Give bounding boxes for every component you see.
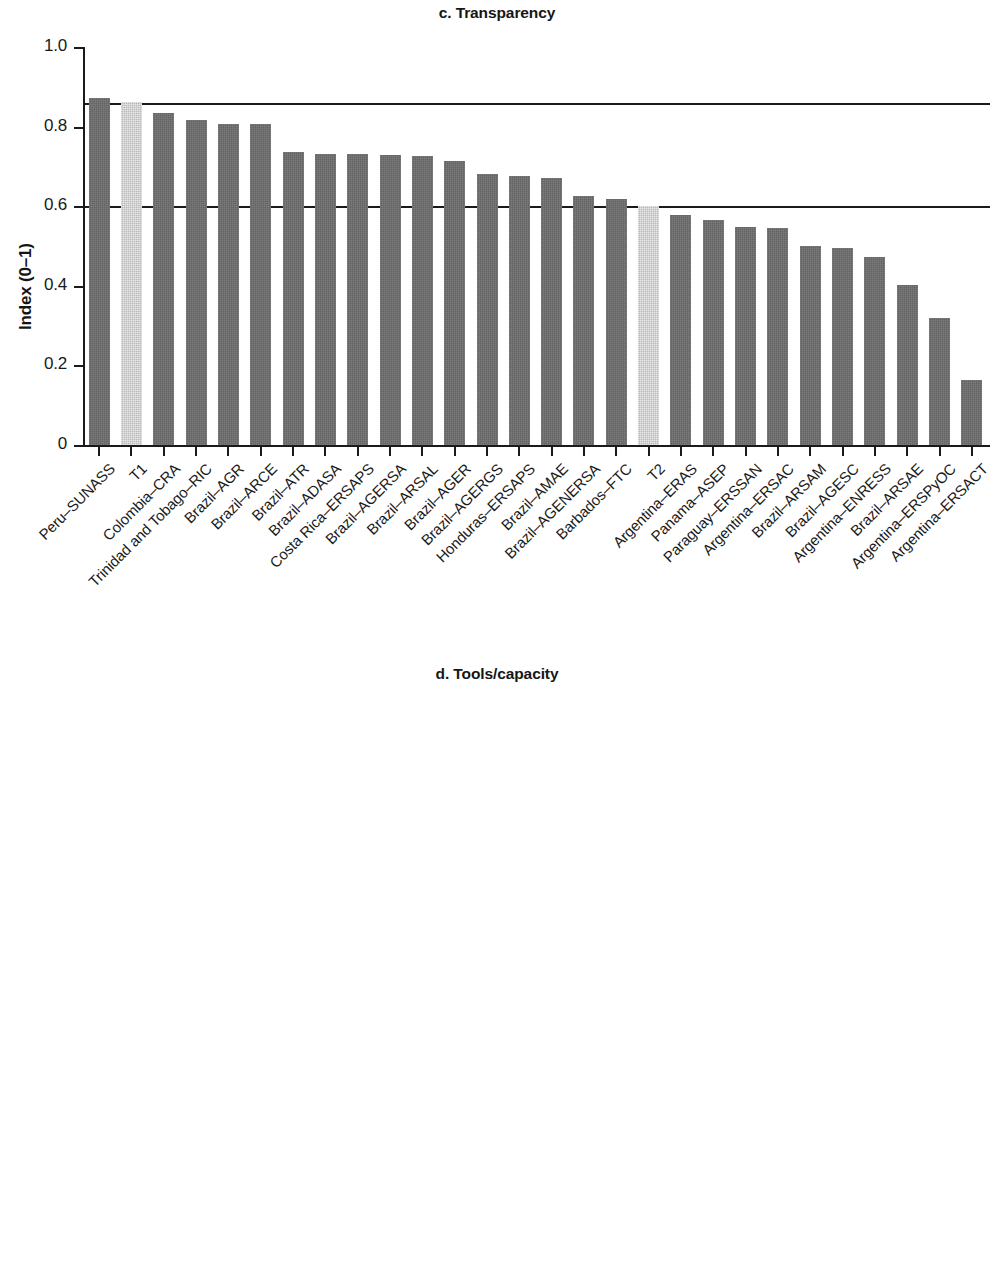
y-axis-tick <box>74 127 83 129</box>
x-axis-tick <box>421 447 423 456</box>
x-axis-tick <box>680 447 682 456</box>
bar <box>929 318 950 445</box>
y-axis-tick-label: 0.4 <box>9 275 67 295</box>
x-axis-tick <box>292 447 294 456</box>
y-axis-tick <box>74 365 83 367</box>
bar <box>218 124 239 445</box>
bar <box>670 215 691 445</box>
x-axis-line <box>83 445 990 447</box>
x-axis-tick <box>648 447 650 456</box>
bar <box>735 227 756 446</box>
x-axis-tick <box>971 447 973 456</box>
x-axis-tick <box>551 447 553 456</box>
y-axis-tick-label: 0.8 <box>9 116 67 136</box>
x-axis-tick <box>130 447 132 456</box>
x-axis-tick <box>227 447 229 456</box>
bar <box>186 120 207 445</box>
x-axis-tick <box>486 447 488 456</box>
bar <box>250 124 271 445</box>
x-axis-tick <box>98 447 100 456</box>
bar <box>897 285 918 445</box>
bar <box>444 161 465 445</box>
bar <box>573 196 594 445</box>
bar <box>509 176 530 445</box>
panel-d-title: d. Tools/capacity <box>0 665 994 683</box>
y-axis-tick-label: 1.0 <box>9 36 67 56</box>
y-axis-tick <box>74 286 83 288</box>
bar <box>121 102 142 445</box>
x-axis-tick <box>874 447 876 456</box>
panel-tools-capacity: d. Tools/capacity Index (0–1) 00.20.40.6… <box>0 660 994 1283</box>
x-axis-tick <box>389 447 391 456</box>
x-axis-tick <box>939 447 941 456</box>
bar <box>703 220 724 445</box>
bar <box>961 380 982 445</box>
x-axis-tick <box>163 447 165 456</box>
y-axis-tick-label: 0 <box>9 434 67 454</box>
x-axis-tick <box>777 447 779 456</box>
x-axis-tick <box>615 447 617 456</box>
bar <box>89 98 110 445</box>
bar <box>864 257 885 445</box>
x-axis-tick <box>260 447 262 456</box>
x-axis-tick <box>809 447 811 456</box>
panel-c-plot-area: 00.20.40.60.81.0Peru–SUNASST1Colombia–CR… <box>83 47 988 445</box>
x-axis-tick <box>712 447 714 456</box>
bar <box>606 199 627 445</box>
x-axis-tick <box>842 447 844 456</box>
bar <box>315 154 336 445</box>
x-axis-tick <box>745 447 747 456</box>
panel-c-title: c. Transparency <box>0 4 994 22</box>
bar <box>347 154 368 445</box>
bar <box>412 156 433 445</box>
x-axis-tick <box>324 447 326 456</box>
panel-transparency: c. Transparency Index (0–1) 00.20.40.60.… <box>0 0 994 660</box>
y-axis-tick <box>74 206 83 208</box>
bar <box>541 178 562 445</box>
x-axis-tick <box>583 447 585 456</box>
bar <box>380 155 401 445</box>
bar <box>832 248 853 445</box>
bar <box>283 152 304 445</box>
x-axis-tick <box>195 447 197 456</box>
bar <box>800 246 821 445</box>
y-axis-line <box>83 47 85 446</box>
bar <box>638 206 659 445</box>
x-axis-tick <box>906 447 908 456</box>
x-axis-tick <box>357 447 359 456</box>
x-axis-tick <box>518 447 520 456</box>
y-axis-tick-label: 0.2 <box>9 354 67 374</box>
y-axis-tick <box>74 47 83 49</box>
reference-line <box>83 103 990 105</box>
bar <box>153 113 174 445</box>
x-axis-tick <box>454 447 456 456</box>
bar <box>477 174 498 445</box>
y-axis-tick <box>74 445 83 447</box>
bar <box>767 228 788 445</box>
y-axis-tick-label: 0.6 <box>9 195 67 215</box>
